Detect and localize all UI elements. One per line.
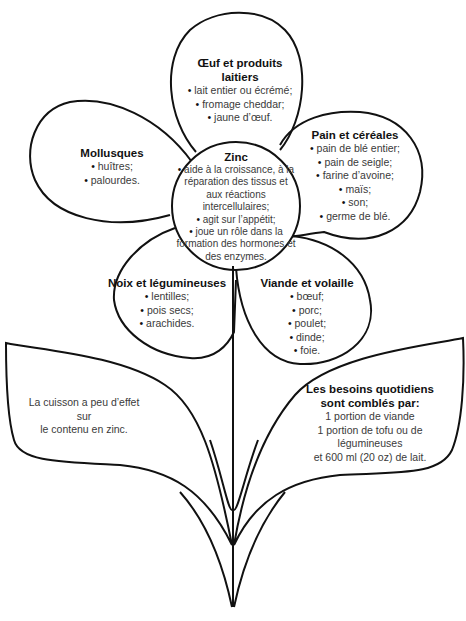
list-item: farine d’avoine;: [292, 169, 418, 183]
leaf-vein-right-2: [234, 440, 258, 510]
list-item: poulet;: [252, 317, 362, 331]
leaf-line: et 600 ml (20 oz) de lait.: [300, 451, 440, 465]
center-zinc: Zinc aide à la croissance, à la réparati…: [176, 150, 296, 263]
list-item: joue un rôle dans la formation des hormo…: [176, 226, 296, 263]
list-item: agit sur l’appétit;: [176, 214, 296, 226]
list-item: jaune d’œuf.: [166, 111, 314, 125]
list-item: lentilles;: [104, 290, 230, 304]
leaf-line: 1 portion de viande: [300, 410, 440, 424]
petal-mollusques: Mollusques huîtres; palourdes.: [62, 146, 162, 187]
list-item: fromage cheddar;: [166, 98, 314, 112]
petal-viande: Viande et volaille bœuf; porc; poulet; d…: [252, 276, 362, 358]
list-item: huîtres;: [62, 160, 162, 174]
list-item: pain de seigle;: [292, 156, 418, 170]
list-item: pois secs;: [104, 304, 230, 318]
leaf-line: 1 portion de tofu ou de: [300, 424, 440, 438]
petal-title: Mollusques: [62, 146, 162, 160]
leaf-title: sont comblés par:: [300, 396, 440, 410]
list-item: porc;: [252, 304, 362, 318]
leaf-left-text: La cuisson a peu d’effet sur le contenu …: [20, 396, 148, 437]
petal-oeuf: Œuf et produits laitiers lait entier ou …: [166, 56, 314, 125]
petal-title: Noix et légumineuses: [104, 276, 230, 290]
list-item: bœuf;: [252, 290, 362, 304]
petal-title: Œuf et produits: [166, 56, 314, 70]
petal-pain: Pain et céréales pain de blé entier; pai…: [292, 128, 418, 224]
center-title: Zinc: [176, 150, 296, 164]
list-item: pain de blé entier;: [292, 142, 418, 156]
leaf-line: sur: [20, 410, 148, 424]
leaf-line: La cuisson a peu d’effet: [20, 396, 148, 410]
list-item: aide à la croissance, à la réparation de…: [176, 164, 296, 214]
petal-title: laitiers: [166, 70, 314, 84]
list-item: palourdes.: [62, 174, 162, 188]
petal-noix: Noix et légumineuses lentilles; pois sec…: [104, 276, 230, 331]
list-item: arachides.: [104, 317, 230, 331]
list-item: lait entier ou écrémé;: [166, 84, 314, 98]
petal-title: Pain et céréales: [292, 128, 418, 142]
leaf-title: Les besoins quotidiens: [300, 382, 440, 396]
leaf-right-text: Les besoins quotidiens sont comblés par:…: [300, 382, 440, 464]
list-item: foie.: [252, 344, 362, 358]
list-item: germe de blé.: [292, 210, 418, 224]
petal-title: Viande et volaille: [252, 276, 362, 290]
leaf-vein-left-2: [210, 440, 232, 510]
list-item: son;: [292, 196, 418, 210]
leaf-line: légumineuses: [300, 437, 440, 451]
list-item: dinde;: [252, 331, 362, 345]
leaf-line: le contenu en zinc.: [20, 423, 148, 437]
list-item: maïs;: [292, 183, 418, 197]
